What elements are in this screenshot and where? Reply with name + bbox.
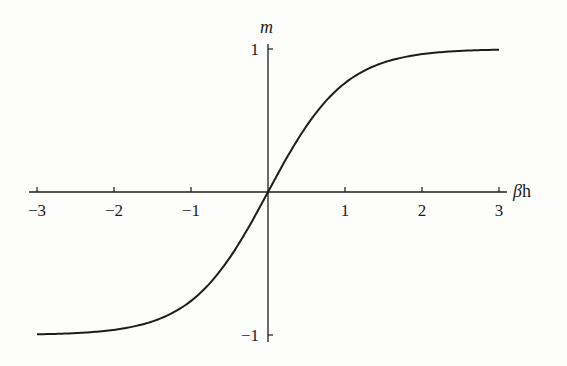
x-tick-label: 2 <box>418 201 427 220</box>
y-tick-label: 1 <box>251 40 260 59</box>
y-tick-label: −1 <box>241 326 259 345</box>
tanh-magnetization-chart: −3−2−1123 1−1 m βh <box>0 0 567 366</box>
x-axis-title: βh <box>512 181 531 201</box>
x-tick-label: −2 <box>105 201 123 220</box>
x-tick-label: 3 <box>495 201 504 220</box>
x-axis-title-h: h <box>522 181 531 201</box>
y-axis-title: m <box>260 17 273 37</box>
x-axis-title-beta: β <box>512 181 522 201</box>
x-tick-label: 1 <box>341 201 350 220</box>
x-tick-label: −1 <box>182 201 200 220</box>
x-tick-label: −3 <box>28 201 46 220</box>
